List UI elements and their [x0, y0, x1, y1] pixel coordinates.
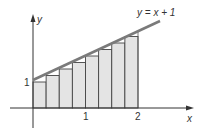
riemann-rectangle — [99, 50, 112, 109]
x-tick-1-label: 1 — [83, 111, 89, 122]
curve-label: y = x + 1 — [136, 7, 175, 18]
x-axis-label: x — [186, 113, 193, 124]
y-axis-arrow-icon — [31, 14, 36, 22]
riemann-rectangle — [72, 63, 85, 109]
riemann-rectangle — [112, 43, 125, 108]
riemann-rectangle — [86, 56, 99, 108]
riemann-rectangle — [33, 82, 46, 108]
riemann-rectangle — [46, 76, 59, 109]
y-tick-1-label: 1 — [24, 77, 30, 88]
riemann-sum-diagram: y = x + 1 y x 1 1 2 — [0, 0, 202, 134]
x-tick-2-label: 2 — [135, 111, 141, 122]
riemann-rectangle — [125, 37, 138, 109]
x-axis-arrow-icon — [186, 106, 194, 111]
y-axis-label: y — [36, 14, 43, 25]
riemann-rectangle — [59, 69, 72, 108]
